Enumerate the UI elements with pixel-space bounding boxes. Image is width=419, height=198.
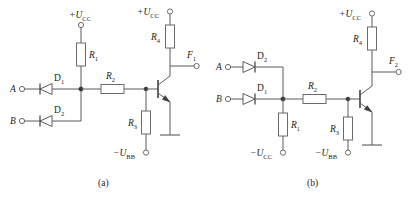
resistor-r4-label: R4 [150,32,161,44]
resistor-r2-body [101,85,124,94]
diode-d1-triangle [243,94,255,105]
input-a-terminal[interactable] [225,64,230,69]
supply-vcc-right-label: +UCC [137,7,159,19]
diode-d2-triangle [40,116,52,127]
circuit-b: A D2 B D1 R1 [215,9,401,189]
transistor-collector-lead [158,76,170,85]
input-b-label: B [10,116,16,126]
diode-d2 [243,62,255,73]
resistor-r3-body [142,111,151,134]
supply-vcc-bottom-label: −UCC [250,148,272,160]
diode-d1 [243,94,255,105]
diode-d2-label: D2 [54,105,64,117]
resistor-r2-label: R2 [307,81,317,93]
resistor-r3-body [344,117,353,140]
diode-d1-label: D1 [257,83,267,95]
input-a-label: A [215,62,222,72]
resistor-r2-body [303,95,326,104]
resistor-r4-label: R4 [352,34,363,46]
diode-d1-label: D1 [54,73,64,85]
supply-vcc-right-terminal[interactable] [167,9,172,14]
resistor-r3-label: R3 [329,124,339,136]
supply-vcc-left-terminal[interactable] [78,22,83,27]
caption-b: (b) [307,178,318,189]
output-f2-label: F2 [388,56,398,68]
supply-vbb-terminal[interactable] [345,150,350,155]
supply-vcc-bottom-terminal[interactable] [280,150,285,155]
output-f2-terminal[interactable] [396,69,401,74]
diode-d2-triangle [243,62,255,73]
diode-d1 [40,84,52,95]
resistor-r1-label: R1 [88,50,98,62]
circuit-a: +UCC R1 A D1 B D2 [9,7,199,189]
output-f1-label: F1 [186,50,196,62]
input-b-terminal[interactable] [225,96,230,101]
caption-a: (a) [98,178,109,189]
input-b-terminal[interactable] [19,118,24,123]
supply-vcc-top-label: +UCC [339,9,361,21]
supply-vbb-label: −UBB [315,148,338,160]
resistor-r2-label: R2 [105,71,115,83]
supply-vbb-terminal[interactable] [143,150,148,155]
resistor-r1-body [279,113,288,136]
supply-vcc-top-terminal[interactable] [369,11,374,16]
resistor-r1-label: R1 [290,120,300,132]
supply-vcc-left-label: +UCC [69,10,91,22]
diode-d2 [40,116,52,127]
input-a-label: A [9,84,16,94]
resistor-r3-label: R3 [127,118,137,130]
transistor-npn [348,86,372,112]
supply-vbb-label: −UBB [113,148,136,160]
input-b-label: B [216,94,222,104]
input-a-terminal[interactable] [19,86,24,91]
resistor-r1-body [77,43,86,66]
output-f1-terminal[interactable] [194,63,199,68]
circuit-figure: +UCC R1 A D1 B D2 [0,0,419,198]
transistor-collector-lead [360,86,372,95]
diode-d1-triangle [40,84,52,95]
transistor-npn [146,76,170,102]
resistor-r4-body [368,27,377,50]
resistor-r4-body [166,25,175,48]
diode-d2-label: D2 [257,51,267,63]
